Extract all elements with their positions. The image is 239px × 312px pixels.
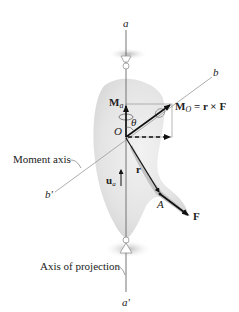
rigid-body-shape [93, 79, 188, 239]
position-vector-label: r [136, 163, 141, 175]
moment-axis-label: Moment axis [13, 153, 71, 165]
moment-about-point-label: MO = r × F [175, 100, 226, 114]
angle-theta-label: θ [131, 116, 137, 128]
moment-axis-leader [70, 160, 81, 168]
axis-a-top-label: a [123, 17, 129, 29]
moment-about-axis-diagram: a a' b b' Moment axis Axis of projection… [0, 0, 239, 312]
axis-b-top-label: b [213, 66, 219, 78]
projection-axis-label: Axis of projection [40, 260, 121, 272]
origin-label: O [114, 125, 122, 137]
axis-a-bottom-label: a' [122, 296, 131, 308]
point-a-label: A [156, 198, 164, 210]
force-vector-label: F [193, 210, 200, 222]
axis-b-bottom-label: b' [45, 188, 54, 200]
